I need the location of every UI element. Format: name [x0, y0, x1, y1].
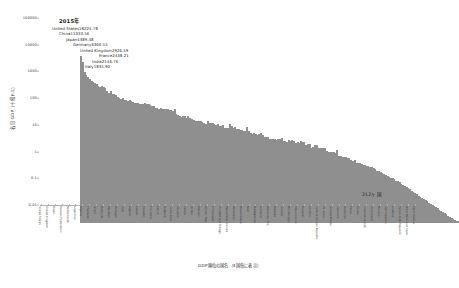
x-tick-label: St. Lucia: [322, 206, 326, 218]
x-tick-label: Israel: [93, 206, 97, 214]
y-tick-mark: [37, 98, 39, 99]
x-tick-label: Sri Lanka: [149, 206, 153, 219]
x-tick-label: Russian Federation: [59, 206, 63, 232]
x-tick-label: Guinea: [280, 206, 284, 216]
x-tick-label: Mali: [246, 206, 250, 212]
x-tick-label: Monaco: [377, 206, 381, 217]
y-tick-label: 10000: [25, 43, 37, 47]
x-tick-label: Kenya: [156, 206, 160, 214]
x-tick-label: Palau: [349, 206, 353, 214]
y-tick-label: 100: [30, 96, 37, 100]
x-tick-label: Costa Rica: [169, 206, 173, 221]
x-tick-label: Saint Helena: [412, 206, 416, 224]
y-tick-label: 1000: [27, 69, 37, 73]
x-tick-label: Central African Republic: [315, 206, 319, 240]
y-tick-mark: [37, 151, 39, 152]
x-tick-label: Rwanda: [273, 206, 277, 217]
y-tick-mark: [37, 125, 39, 126]
country-count-note: 212ヶ国: [362, 191, 382, 197]
x-tick-label: Thailand: [86, 206, 90, 218]
x-tick-label: Dominica: [343, 206, 347, 219]
y-tick-label: 0.01: [29, 203, 37, 207]
x-tick-label: Netherlands: [66, 206, 70, 223]
x-tick-label: Malaysia: [100, 206, 104, 218]
y-axis-label: 名目 GDP（十億ドル）: [9, 69, 15, 145]
x-tick-label: Madagascar: [253, 206, 257, 223]
x-tick-label: Algeria: [128, 206, 132, 216]
x-tick-label: Portugal: [114, 206, 118, 218]
x-tick-label: United States: [38, 206, 42, 225]
x-tick-label: Montenegro: [287, 206, 291, 223]
x-tick-label: Kuwait: [135, 206, 139, 215]
x-tick-label: Bulgaria: [163, 206, 167, 218]
x-tick-label: Papua New Guinea: [225, 206, 229, 232]
x-tick-label: Yemen, Rep.: [204, 206, 208, 223]
x-tick-label: Guinea-Bissau: [329, 206, 333, 226]
x-tick-label: Trinidad and Tobago: [218, 206, 222, 234]
x-tick-label: United Kingdom: [45, 206, 49, 228]
y-tick-mark: [37, 44, 39, 45]
x-tick-label: Brazil: [52, 206, 56, 214]
annotation-country: Italy: [85, 64, 94, 70]
x-tick-label: Serbia: [183, 206, 187, 215]
y-tick-mark: [37, 205, 39, 206]
y-tick-mark: [37, 71, 39, 72]
y-tick-label: 100000: [23, 16, 37, 20]
x-tick-label: Bahamas, The: [266, 206, 270, 226]
x-tick-label: Comoros: [336, 206, 340, 218]
x-tick-label: Mozambique: [239, 206, 243, 224]
x-tick-label: Slovenia: [176, 206, 180, 218]
x-tick-label: Syrian Arab Republic: [398, 206, 402, 235]
top-countries-list: United States 18224.78China 11033.56Japa…: [52, 26, 192, 70]
y-tick-mark: [37, 178, 39, 179]
x-tick-label: Sierra Leone: [294, 206, 298, 223]
top-countries-annotation: 2015年 United States 18224.78China 11033.…: [52, 17, 192, 70]
x-tick-label: Argentina: [73, 206, 77, 220]
x-tick-label: Lesotho: [308, 206, 312, 217]
x-tick-label: Pakistan: [107, 206, 111, 218]
x-tick-label: Armenia: [259, 206, 263, 218]
x-tick-label: Channel Islands: [363, 206, 367, 228]
x-tick-label: Bahrain: [197, 206, 201, 217]
annotation-row: Italy 1835.90: [52, 64, 192, 70]
annotation-value: 1835.90: [94, 64, 110, 70]
x-tick-label: Ecuador: [142, 206, 146, 217]
x-tick-label: Nigeria: [79, 206, 83, 216]
x-tick-label: Tuvalu: [356, 206, 360, 215]
x-axis-label: GDP順位の国名（4国毎に表示）: [40, 262, 419, 268]
x-tick-label: West Bank and Gaza: [405, 206, 409, 235]
x-tick-label: Botswana: [232, 206, 236, 220]
x-tick-label: Greenland: [370, 206, 374, 220]
x-axis-ticks: United StatesUnited KingdomBrazilRussian…: [40, 206, 419, 254]
x-tick-label: El Salvador: [211, 206, 215, 222]
x-tick-label: Iraq: [121, 206, 125, 211]
y-tick-mark: [37, 18, 39, 19]
x-tick-label: Burundi: [301, 206, 305, 217]
y-axis-ticks: 1000001000010001001010.10.01: [0, 0, 37, 288]
x-tick-label: Andorra: [391, 206, 395, 217]
x-tick-label: Jordan: [190, 206, 194, 215]
x-tick-label: Sint Maarten: [384, 206, 388, 224]
chart-title-year: 2015年: [59, 17, 192, 24]
